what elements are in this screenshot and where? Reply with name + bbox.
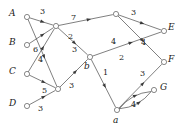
- node-m2: [55, 86, 60, 91]
- node-t: [113, 11, 118, 16]
- edge-capacity-label-t-F: 4: [141, 39, 146, 47]
- arrowhead-m1-to-t: [86, 18, 91, 21]
- node-circle-m2: [55, 86, 60, 91]
- node-m1: [53, 23, 58, 28]
- node-circle-b: [87, 54, 92, 59]
- node-label-F: F: [168, 55, 174, 64]
- node-circle-B: [24, 42, 29, 47]
- node-G: [151, 87, 156, 92]
- node-circle-D: [24, 103, 29, 108]
- arrowhead-A-to-m1: [40, 20, 45, 23]
- node-B: [24, 42, 29, 47]
- edge-capacity-label-a-F: 2: [119, 54, 124, 62]
- node-A: [24, 14, 29, 19]
- node-circle-m1: [53, 23, 58, 28]
- edge-capacity-label-m1-b: 2: [68, 33, 73, 41]
- arrowhead-b-to-a: [102, 83, 106, 88]
- edge-capacity-label-A-m2: 3: [69, 82, 74, 90]
- edge-capacity-label-b-E: 4: [111, 38, 116, 46]
- edge-capacity-label-a-G: 4: [131, 101, 136, 109]
- edge-capacity-label-a-G: 3: [140, 70, 145, 78]
- edge-layer: [28, 15, 162, 109]
- node-circle-A: [24, 14, 29, 19]
- node-label-G: G: [160, 83, 167, 92]
- edge-b-to-E: [92, 32, 161, 56]
- node-label-C: C: [9, 67, 16, 76]
- node-label-E: E: [168, 23, 175, 32]
- arrowhead-a-to-G: [136, 101, 141, 105]
- arrowhead-B-to-m1: [40, 34, 45, 38]
- node-E: [161, 28, 166, 33]
- node-label-A: A: [9, 9, 16, 18]
- node-D: [24, 103, 29, 108]
- node-label-B: B: [9, 38, 16, 47]
- edge-capacity-label-B-m1: 6: [33, 46, 38, 54]
- edge-capacity-label-C-m1: 4: [38, 56, 43, 64]
- node-F: [161, 59, 166, 64]
- node-circle-G: [151, 87, 156, 92]
- node-a: [114, 107, 119, 112]
- node-circle-C: [24, 71, 29, 76]
- edge-m1-to-t: [59, 15, 113, 26]
- node-layer: [24, 11, 166, 112]
- node-circle-a: [114, 107, 119, 112]
- edge-capacity-label-b-a: 1: [103, 69, 108, 77]
- node-label-b: b: [84, 62, 90, 71]
- node-circle-F: [161, 59, 166, 64]
- arrowhead-a-to-G: [133, 95, 138, 98]
- arrowhead-D-to-m2: [41, 96, 46, 100]
- arrowhead-C-to-m2: [41, 80, 46, 83]
- node-label-D: D: [9, 99, 16, 108]
- node-circle-t: [113, 11, 118, 16]
- edge-capacity-label-t-E: 3: [131, 9, 136, 17]
- edge-capacity-label-m2-b: 3: [72, 46, 77, 54]
- edge-capacity-label-A-m1: 3: [40, 8, 45, 16]
- node-b: [87, 54, 92, 59]
- node-label-a: a: [113, 116, 118, 125]
- node-circle-E: [161, 28, 166, 33]
- flow-network-diagram: 3364537233441234ABCDbaEFG: [0, 0, 179, 128]
- arrowhead-t-to-E: [140, 21, 145, 24]
- edge-capacity-label-m1-t: 7: [71, 14, 76, 22]
- edge-capacity-label-D-m2: 3: [38, 105, 43, 113]
- edge-b-to-a: [91, 59, 115, 107]
- node-C: [24, 71, 29, 76]
- edge-capacity-label-C-m2: 5: [42, 87, 47, 95]
- arrowhead-b-to-E: [128, 42, 133, 45]
